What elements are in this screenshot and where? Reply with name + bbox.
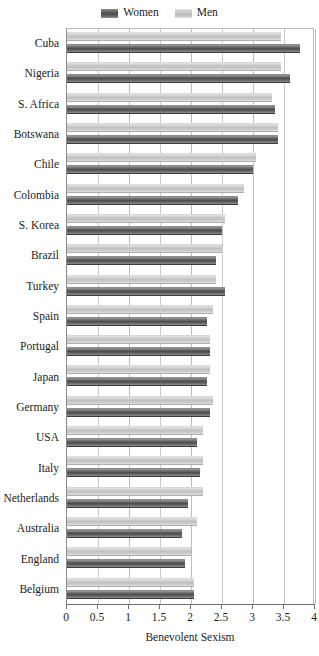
x-tick-label-0.5: 0.5	[82, 611, 112, 624]
bar-row	[67, 544, 313, 574]
y-axis-label-england: England	[0, 553, 59, 565]
x-axis-tick-labels: 00.511.522.533.54	[0, 611, 319, 627]
x-tick-label-4: 4	[299, 611, 319, 624]
bar-row	[67, 272, 313, 302]
bar-women-netherlands	[67, 499, 188, 508]
y-axis-label-s-korea: S. Korea	[0, 219, 59, 231]
bar-men-england	[67, 547, 191, 556]
y-axis-label-usa: USA	[0, 431, 59, 443]
legend-swatch-men	[175, 9, 192, 18]
y-axis-label-nigeria: Nigeria	[0, 67, 59, 79]
bar-row	[67, 514, 313, 544]
bar-women-s-korea	[67, 226, 222, 235]
bar-rows	[67, 29, 313, 604]
bar-men-usa	[67, 426, 203, 435]
legend-entry-women: Women	[101, 7, 158, 19]
x-tick-label-1: 1	[113, 611, 143, 624]
bar-men-netherlands	[67, 487, 203, 496]
x-tick-3.5	[283, 604, 284, 609]
legend-label-women: Women	[123, 7, 158, 19]
bar-women-belgium	[67, 590, 194, 599]
bar-women-usa	[67, 438, 197, 447]
bar-row	[67, 575, 313, 605]
y-axis-category-labels: CubaNigeriaS. AfricaBotswanaChileColombi…	[0, 28, 63, 604]
bar-row	[67, 29, 313, 59]
x-tick-0	[66, 604, 67, 609]
bar-women-portugal	[67, 347, 210, 356]
x-tick-label-1.5: 1.5	[144, 611, 174, 624]
bar-row	[67, 211, 313, 241]
x-tick-0.5	[97, 604, 98, 609]
bar-men-nigeria	[67, 62, 281, 71]
bar-women-chile	[67, 165, 253, 174]
y-axis-label-japan: Japan	[0, 371, 59, 383]
bar-men-belgium	[67, 578, 194, 587]
x-axis-title: Benevolent Sexism	[66, 631, 314, 644]
bar-women-brazil	[67, 256, 216, 265]
bar-row	[67, 302, 313, 332]
bar-women-australia	[67, 529, 182, 538]
bar-women-colombia	[67, 196, 238, 205]
y-axis-label-brazil: Brazil	[0, 249, 59, 261]
x-tick-label-2: 2	[175, 611, 205, 624]
bar-women-botswana	[67, 135, 278, 144]
bar-men-brazil	[67, 244, 222, 253]
x-tick-label-3: 3	[237, 611, 267, 624]
bar-men-s-africa	[67, 93, 272, 102]
y-axis-label-chile: Chile	[0, 158, 59, 170]
chart-legend: WomenMen	[0, 4, 319, 22]
bar-men-colombia	[67, 184, 244, 193]
bar-women-cuba	[67, 44, 300, 53]
bar-men-turkey	[67, 275, 216, 284]
x-tick-label-3.5: 3.5	[268, 611, 298, 624]
bar-men-japan	[67, 365, 210, 374]
bar-row	[67, 59, 313, 89]
y-axis-label-s-africa: S. Africa	[0, 98, 59, 110]
y-axis-label-italy: Italy	[0, 462, 59, 474]
y-axis-label-cuba: Cuba	[0, 37, 59, 49]
bar-row	[67, 423, 313, 453]
y-axis-label-belgium: Belgium	[0, 583, 59, 595]
bar-row	[67, 393, 313, 423]
y-axis-label-spain: Spain	[0, 310, 59, 322]
legend-entry-men: Men	[175, 7, 218, 19]
x-tick-2.5	[221, 604, 222, 609]
bar-row	[67, 453, 313, 483]
x-tick-1	[128, 604, 129, 609]
bar-women-japan	[67, 377, 207, 386]
bar-men-italy	[67, 456, 203, 465]
bar-women-nigeria	[67, 74, 290, 83]
bar-row	[67, 90, 313, 120]
bar-men-chile	[67, 153, 256, 162]
bar-row	[67, 332, 313, 362]
x-tick-3	[252, 604, 253, 609]
y-axis-label-germany: Germany	[0, 401, 59, 413]
bar-women-turkey	[67, 287, 225, 296]
x-axis-ticks	[66, 604, 314, 610]
bar-row	[67, 181, 313, 211]
benevolent-sexism-bar-chart: WomenMen CubaNigeriaS. AfricaBotswanaChi…	[0, 0, 319, 656]
y-axis-label-australia: Australia	[0, 522, 59, 534]
bar-row	[67, 362, 313, 392]
bar-men-s-korea	[67, 214, 225, 223]
y-axis-label-botswana: Botswana	[0, 128, 59, 140]
bar-men-germany	[67, 396, 213, 405]
y-axis-label-netherlands: Netherlands	[0, 492, 59, 504]
bar-women-england	[67, 559, 185, 568]
bar-row	[67, 484, 313, 514]
plot-area	[66, 28, 314, 604]
bar-women-spain	[67, 317, 207, 326]
bar-men-cuba	[67, 32, 281, 41]
x-tick-label-0: 0	[51, 611, 81, 624]
bar-men-australia	[67, 517, 197, 526]
gridline-4	[315, 29, 316, 604]
bar-women-germany	[67, 408, 210, 417]
x-tick-label-2.5: 2.5	[206, 611, 236, 624]
bar-women-s-africa	[67, 105, 275, 114]
x-tick-4	[314, 604, 315, 609]
x-tick-1.5	[159, 604, 160, 609]
legend-swatch-women	[101, 9, 118, 18]
x-tick-2	[190, 604, 191, 609]
bar-men-botswana	[67, 123, 278, 132]
bar-men-portugal	[67, 335, 210, 344]
